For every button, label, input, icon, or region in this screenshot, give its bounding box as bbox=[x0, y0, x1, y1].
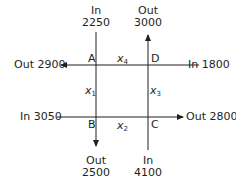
variable-x3-subscript: 3 bbox=[157, 90, 161, 98]
flow-top-d-value: 3000 bbox=[128, 17, 168, 29]
node-b: B bbox=[88, 119, 96, 131]
variable-x3: x3 bbox=[150, 85, 161, 100]
flow-left-a: Out 2900 bbox=[14, 59, 65, 71]
node-a: A bbox=[88, 53, 96, 65]
flow-top-a-value: 2250 bbox=[76, 17, 116, 29]
flow-right-c: Out 2800 bbox=[186, 111, 236, 123]
variable-x2-subscript: 2 bbox=[124, 125, 128, 133]
flow-bottom-c-value: 4100 bbox=[128, 167, 168, 179]
flow-left-b: In 3050 bbox=[20, 111, 62, 123]
variable-x1: x1 bbox=[85, 85, 96, 100]
flow-top-d: Out 3000 bbox=[128, 5, 168, 29]
flow-right-d: In 1800 bbox=[188, 59, 230, 71]
variable-x1-subscript: 1 bbox=[92, 90, 96, 98]
flow-network-diagram bbox=[0, 0, 236, 185]
variable-x4: x4 bbox=[117, 53, 128, 68]
flow-bottom-b: Out 2500 bbox=[76, 155, 116, 179]
flow-bottom-c: In 4100 bbox=[128, 155, 168, 179]
flow-bottom-b-value: 2500 bbox=[76, 167, 116, 179]
variable-x4-subscript: 4 bbox=[124, 58, 128, 66]
node-d: D bbox=[151, 53, 159, 65]
variable-x2: x2 bbox=[117, 120, 128, 135]
node-c: C bbox=[151, 119, 159, 131]
flow-top-a: In 2250 bbox=[76, 5, 116, 29]
